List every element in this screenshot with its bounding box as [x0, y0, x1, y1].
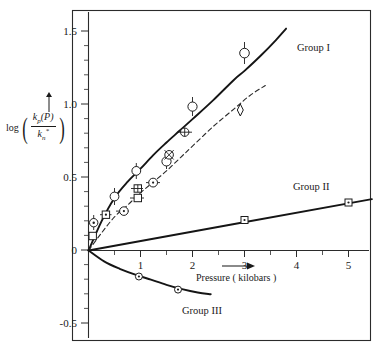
x-axis-major-ticks [141, 251, 349, 258]
y-axis-label-fraction: ( kp(P) kn* ) [20, 112, 67, 143]
left-paren: ( [22, 116, 28, 140]
x-tick-label-1: 2 [190, 259, 196, 271]
figure-container: 1.5 1.0 0.5 0 -0.5 1 2 3 4 5 Pressure ( … [0, 0, 383, 349]
fraction-numerator: kp(P) [31, 112, 56, 126]
plot-frame [73, 11, 371, 341]
y-axis-arrow-icon [44, 92, 54, 112]
annotation-group-ii: Group II [293, 181, 330, 192]
curve-group-iii [89, 251, 211, 295]
x-tick-label-0: 1 [138, 259, 144, 271]
right-paren: ) [59, 116, 65, 140]
y-tick-label-2: 0.5 [63, 171, 77, 183]
x-axis-arrow-icon [222, 263, 255, 270]
y-tick-label-3: 0 [72, 244, 78, 256]
curve-group-i [89, 29, 287, 251]
fraction: kp(P) kn* [31, 112, 56, 143]
y-axis-label: log ( kp(P) kn* ) [6, 112, 76, 143]
y-tick-label-0: 1.5 [63, 25, 77, 37]
y-axis-label-log: log [6, 123, 19, 133]
curve-group-ii [89, 199, 372, 250]
x-axis-minor-ticks [115, 251, 323, 256]
x-axis-title: Pressure ( kilobars ) [196, 272, 276, 284]
annotation-group-i: Group I [297, 42, 330, 53]
x-tick-label-3: 4 [294, 259, 300, 271]
fraction-denominator: kn* [35, 127, 50, 143]
annotation-group-iii: Group III [182, 305, 222, 316]
y-tick-label-4: -0.5 [60, 317, 78, 329]
y-tick-label-1: 1.0 [63, 98, 77, 110]
data-point-group-i [90, 42, 250, 230]
x-tick-label-2: 3 [242, 259, 248, 271]
x-tick-label-4: 5 [346, 259, 352, 271]
plot-canvas: 1.5 1.0 0.5 0 -0.5 1 2 3 4 5 Pressure ( … [0, 0, 383, 349]
